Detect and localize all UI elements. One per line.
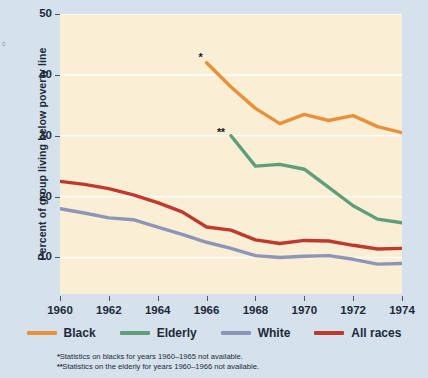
x-tick-1966: 1966 (180, 305, 234, 317)
x-tick-1974: 1974 (375, 305, 428, 317)
poverty-line-chart: c Percent of group living below poverty … (0, 0, 428, 378)
x-tick-mark-1968 (255, 296, 256, 301)
elderly-footnote-marker: ** (217, 127, 225, 138)
x-tick-1968: 1968 (228, 305, 282, 317)
footnote-1: *Statistics on blacks for years 1960–196… (57, 352, 387, 362)
y-tick-10: 10 (12, 251, 52, 263)
x-tick-mark-1960 (60, 296, 61, 301)
y-tick-30: 30 (12, 130, 52, 142)
legend-label: White (258, 327, 291, 339)
x-tick-1964: 1964 (131, 305, 185, 317)
x-tick-1962: 1962 (82, 305, 136, 317)
footnote-text: Statistics on the elderly for years 1960… (62, 362, 259, 371)
plot-area (60, 14, 402, 294)
series-line-all-races (60, 181, 402, 249)
y-tick-20: 20 (12, 191, 52, 203)
legend-label: Black (64, 327, 96, 339)
footnotes: *Statistics on blacks for years 1960–196… (57, 352, 387, 373)
x-tick-1960: 1960 (33, 305, 87, 317)
black-footnote-marker: * (199, 52, 203, 63)
legend-label: All races (351, 327, 401, 339)
chart-canvas (60, 14, 402, 294)
x-tick-mark-1964 (158, 296, 159, 301)
footnote-text: Statistics on blacks for years 1960–1965… (60, 352, 243, 361)
series-line-black (207, 63, 402, 133)
legend-swatch-icon (314, 331, 344, 335)
y-tick-50: 50 (12, 8, 52, 20)
series-line-white (60, 209, 402, 264)
x-tick-1972: 1972 (326, 305, 380, 317)
legend-swatch-icon (27, 331, 57, 335)
y-axis-title: Percent of group living below poverty li… (36, 29, 48, 279)
y-tick-40: 40 (12, 69, 52, 81)
legend-item-black[interactable]: Black (27, 327, 96, 339)
x-tick-1970: 1970 (277, 305, 331, 317)
legend-item-elderly[interactable]: Elderly (120, 327, 197, 339)
legend-label: Elderly (157, 327, 197, 339)
legend-item-white[interactable]: White (221, 327, 291, 339)
x-tick-mark-1966 (207, 296, 208, 301)
x-tick-mark-1962 (109, 296, 110, 301)
footnote-2: **Statistics on the elderly for years 19… (57, 362, 387, 372)
series-line-elderly (231, 136, 402, 223)
legend-swatch-icon (120, 331, 150, 335)
x-tick-mark-1974 (402, 296, 403, 301)
legend-item-all-races[interactable]: All races (314, 327, 401, 339)
x-tick-mark-1972 (353, 296, 354, 301)
chart-legend: BlackElderlyWhiteAll races (0, 327, 428, 339)
legend-swatch-icon (221, 331, 251, 335)
edge-artifact: c (2, 40, 5, 47)
x-tick-mark-1970 (304, 296, 305, 301)
